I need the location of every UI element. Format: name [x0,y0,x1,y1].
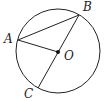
label-o: O [64,49,74,63]
chord-ab [18,15,79,40]
radius-ao [18,40,58,52]
circle-diagram: A B C O [0,0,104,101]
center-point-o [56,50,60,54]
label-c: C [24,87,33,101]
label-b: B [82,0,92,14]
label-a: A [3,32,13,46]
